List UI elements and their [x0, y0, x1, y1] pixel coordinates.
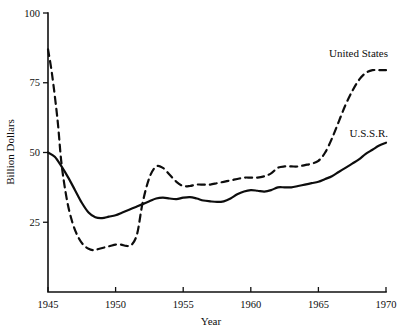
- x-tick-label-1945: 1945: [38, 299, 59, 310]
- chart-text-labels: United StatesU.S.S.R.YearBillion Dollars: [4, 47, 388, 327]
- series-line-united-states: [48, 49, 386, 250]
- series-label-ussr: U.S.S.R.: [349, 127, 388, 139]
- x-tick-label-1970: 1970: [376, 299, 397, 310]
- line-chart: 255075100194519501955196019651970 United…: [0, 0, 404, 332]
- y-tick-label-75: 75: [30, 77, 41, 88]
- chart-series: [48, 49, 386, 250]
- y-tick-label-25: 25: [30, 217, 41, 228]
- y-axis-title: Billion Dollars: [4, 119, 16, 185]
- x-tick-label-1965: 1965: [308, 299, 329, 310]
- chart-container: 255075100194519501955196019651970 United…: [0, 0, 404, 332]
- y-tick-label-100: 100: [24, 8, 40, 19]
- x-tick-label-1960: 1960: [240, 299, 261, 310]
- series-line-u-s-s-r: [48, 143, 386, 218]
- x-axis-title: Year: [201, 315, 222, 327]
- series-label-united-states: United States: [329, 47, 388, 59]
- x-tick-label-1955: 1955: [173, 299, 194, 310]
- x-tick-label-1950: 1950: [105, 299, 126, 310]
- y-tick-label-50: 50: [30, 147, 41, 158]
